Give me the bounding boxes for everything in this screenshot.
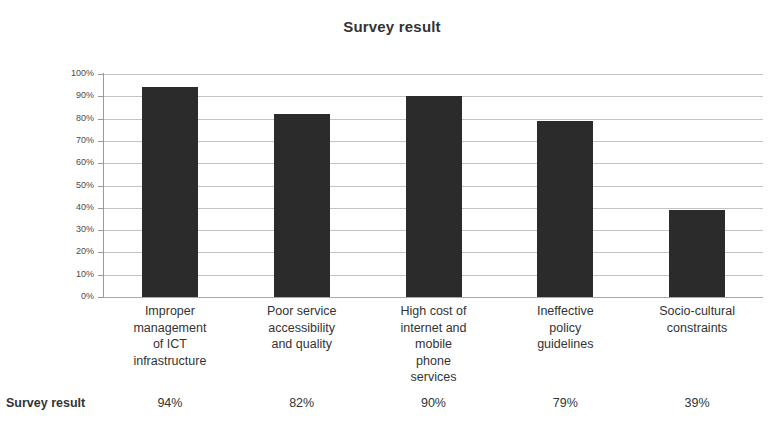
category-label-2: Poor serviceaccessibilityand quality bbox=[236, 303, 368, 353]
data-cell-3: 90% bbox=[368, 396, 500, 410]
data-cell-2: 82% bbox=[236, 396, 368, 410]
y-tick-label-50: 50% bbox=[54, 181, 94, 190]
bar-1 bbox=[142, 87, 198, 297]
y-tick-label-30: 30% bbox=[54, 225, 94, 234]
y-tick-label-60: 60% bbox=[54, 158, 94, 167]
category-label-1: Impropermanagementof ICTinfrastructure bbox=[104, 303, 236, 369]
category-label-3: High cost ofinternet andmobilephoneservi… bbox=[368, 303, 500, 386]
data-cell-5: 39% bbox=[631, 396, 763, 410]
y-tick-label-70: 70% bbox=[54, 136, 94, 145]
data-table-row: Survey result 94%82%90%79%39% bbox=[0, 396, 784, 420]
data-table-row-label: Survey result bbox=[6, 396, 85, 410]
x-axis-category-labels: Impropermanagementof ICTinfrastructurePo… bbox=[104, 303, 763, 385]
category-label-5: Socio-culturalconstraints bbox=[631, 303, 763, 336]
bar-3 bbox=[406, 96, 462, 297]
y-tick-label-20: 20% bbox=[54, 247, 94, 256]
bar-5 bbox=[669, 210, 725, 297]
gridline-0 bbox=[104, 297, 763, 298]
data-cell-1: 94% bbox=[104, 396, 236, 410]
y-tick-label-100: 100% bbox=[54, 69, 94, 78]
bar-2 bbox=[274, 114, 330, 297]
y-tick-label-10: 10% bbox=[54, 270, 94, 279]
y-tick-label-40: 40% bbox=[54, 203, 94, 212]
plot-area bbox=[104, 74, 763, 297]
y-tick-label-0: 0% bbox=[54, 292, 94, 301]
y-tick-label-80: 80% bbox=[54, 114, 94, 123]
y-tick-label-90: 90% bbox=[54, 91, 94, 100]
chart-title: Survey result bbox=[0, 18, 784, 35]
bar-4 bbox=[537, 121, 593, 297]
data-cell-4: 79% bbox=[499, 396, 631, 410]
gridline-100 bbox=[104, 74, 763, 75]
category-label-4: Ineffectivepolicyguidelines bbox=[499, 303, 631, 353]
